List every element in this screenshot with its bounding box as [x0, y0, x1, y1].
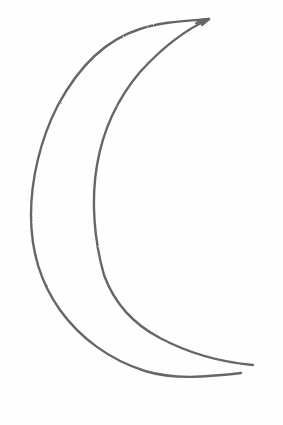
inner-arc: [94, 19, 253, 365]
crescent-moon-sketch: [0, 0, 283, 425]
drawing-canvas: [0, 0, 283, 425]
